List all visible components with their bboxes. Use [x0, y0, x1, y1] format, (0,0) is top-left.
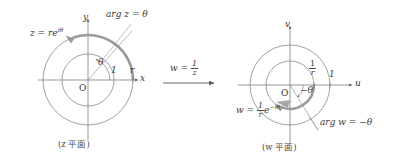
w-tick-radius-numerator: 1: [309, 60, 316, 68]
w-arg-leader: [309, 117, 318, 130]
z-point-label: z = reiθ: [30, 27, 63, 38]
z-axis-y-label: y: [83, 13, 88, 22]
w-tick-radius-label: 1 r: [309, 60, 316, 78]
z-point-label-base: z = re: [30, 28, 58, 38]
w-plane-group: [238, 26, 352, 145]
z-point-label-exponent: iθ: [58, 26, 64, 33]
w-tick-unit-label: 1: [329, 70, 335, 79]
w-angle-label: −θ: [300, 86, 313, 95]
z-tick-radius-label: r: [130, 66, 134, 75]
mapping-label: w = 1 z: [170, 60, 198, 78]
mapping-label-prefix: w =: [170, 63, 188, 73]
z-tick-unit-label: 1: [111, 66, 117, 75]
mapping-denominator: z: [191, 68, 198, 77]
z-angle-label: θ: [98, 58, 103, 67]
w-arg-label: arg w = −θ: [320, 118, 372, 127]
z-axis-x-label: x: [140, 74, 145, 83]
z-arg-label: arg z = θ: [106, 10, 148, 19]
w-point-denominator: r: [257, 110, 264, 119]
w-plane-caption: (w 平面): [262, 143, 297, 152]
mapping-fraction: 1 z: [191, 60, 198, 78]
w-tick-radius-denominator: r: [309, 68, 316, 77]
z-plane-caption: (z 平面): [58, 140, 90, 149]
w-axis-v-label: v: [285, 20, 290, 29]
w-tick-radius-fraction: 1 r: [309, 60, 316, 78]
z-origin-label: O: [79, 84, 86, 93]
w-origin-label: O: [281, 89, 288, 98]
figure-canvas: z = reiθ arg z = θ y x O 1 r θ (z 平面) w …: [0, 0, 398, 164]
w-point-label-prefix: w =: [236, 105, 254, 115]
mapping-numerator: 1: [191, 60, 198, 68]
w-point-numerator: 1: [257, 102, 264, 110]
w-axis-u-label: u: [355, 79, 361, 88]
w-point-exponent: −iθ: [269, 103, 280, 110]
w-point-fraction: 1 r: [257, 102, 264, 120]
w-point-label: w = 1 r e−iθ: [236, 102, 280, 120]
